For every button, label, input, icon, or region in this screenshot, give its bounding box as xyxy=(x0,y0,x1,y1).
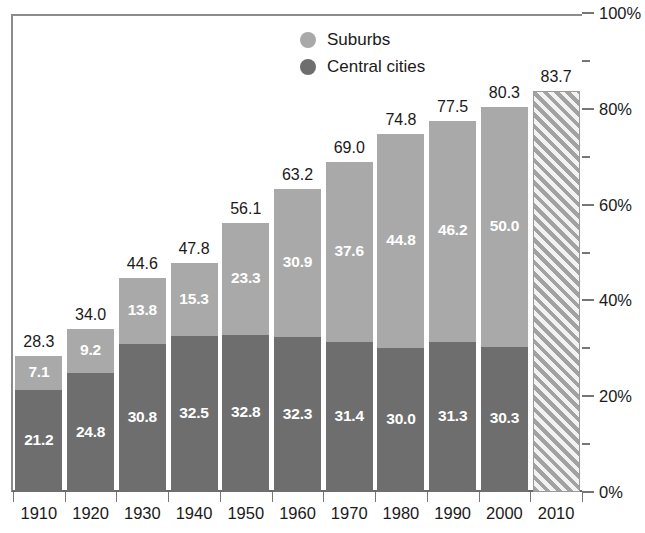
bar-segment-central-cities: 32.3 xyxy=(274,337,321,492)
x-axis-tick xyxy=(479,492,480,502)
bar-value-suburbs: 30.9 xyxy=(274,253,321,271)
bar-value-suburbs: 15.3 xyxy=(171,290,218,308)
bar-value-suburbs: 44.8 xyxy=(377,231,424,249)
bar-segment-suburbs: 37.6 xyxy=(326,162,373,342)
x-axis-label-1940: 1940 xyxy=(168,504,220,523)
x-axis-tick xyxy=(116,492,117,502)
x-axis-label-1970: 1970 xyxy=(323,504,375,523)
x-axis-tick xyxy=(582,492,583,502)
y-axis-tick-major xyxy=(582,395,594,397)
x-axis-label-1920: 1920 xyxy=(65,504,117,523)
bar-segment-central-cities: 30.3 xyxy=(481,347,528,492)
bar-total-label: 56.1 xyxy=(216,200,275,218)
bar-group: 44.830.074.8 xyxy=(377,134,424,492)
circle-icon xyxy=(300,32,316,48)
bar-segment-central-cities: 31.3 xyxy=(429,342,476,492)
y-axis-tick-minor xyxy=(582,443,590,445)
x-axis-tick xyxy=(530,492,531,502)
legend-label: Central cities xyxy=(327,57,425,77)
bar-group: 7.121.228.3 xyxy=(15,356,62,492)
bar-value-suburbs: 50.0 xyxy=(481,217,528,235)
x-axis-tick xyxy=(272,492,273,502)
chart-legend: SuburbsCentral cities xyxy=(300,26,425,80)
circle-icon xyxy=(300,59,316,75)
x-axis-label-1950: 1950 xyxy=(220,504,272,523)
bar-value-central-cities: 30.0 xyxy=(377,410,424,428)
x-axis-tick xyxy=(427,492,428,502)
bar-segment-central-cities: 21.2 xyxy=(15,390,62,492)
x-axis-tick xyxy=(220,492,221,502)
bar-segment-suburbs: 13.8 xyxy=(119,278,166,344)
bar-total-label: 28.3 xyxy=(9,333,68,351)
x-axis-label-1990: 1990 xyxy=(427,504,479,523)
bar-value-suburbs: 9.2 xyxy=(67,341,114,359)
bar-total-label: 83.7 xyxy=(527,68,586,86)
bar-segment-projected xyxy=(533,91,580,492)
bar-segment-suburbs: 46.2 xyxy=(429,121,476,342)
bar-value-suburbs: 7.1 xyxy=(15,364,62,382)
bar-group: 23.332.856.1 xyxy=(222,223,269,492)
y-axis-tick-major xyxy=(582,204,594,206)
bar-group: 13.830.844.6 xyxy=(119,278,166,492)
bar-group: 83.7 xyxy=(533,91,580,492)
bar-segment-central-cities: 30.8 xyxy=(119,344,166,492)
x-axis-tick xyxy=(168,492,169,502)
y-axis-label: 100% xyxy=(599,4,641,23)
bar-segment-central-cities: 30.0 xyxy=(377,348,424,492)
y-axis-label: 60% xyxy=(599,195,632,214)
bar-value-central-cities: 32.3 xyxy=(274,405,321,423)
x-axis-label-1980: 1980 xyxy=(375,504,427,523)
bar-segment-suburbs: 7.1 xyxy=(15,356,62,390)
legend-item: Suburbs xyxy=(300,26,425,53)
x-axis-label-1960: 1960 xyxy=(272,504,324,523)
y-axis-label: 0% xyxy=(599,483,623,502)
bar-total-label: 63.2 xyxy=(268,166,327,184)
x-axis-label-2010: 2010 xyxy=(530,504,582,523)
bar-total-label: 47.8 xyxy=(165,240,224,258)
y-axis-label: 40% xyxy=(599,291,632,310)
bar-segment-suburbs: 30.9 xyxy=(274,189,321,337)
bar-group: 46.231.377.5 xyxy=(429,121,476,492)
x-axis-tick xyxy=(375,492,376,502)
bar-value-central-cities: 32.5 xyxy=(171,404,218,422)
legend-label: Suburbs xyxy=(327,30,390,50)
x-axis-label-1930: 1930 xyxy=(116,504,168,523)
bar-segment-central-cities: 32.8 xyxy=(222,335,269,492)
bar-total-label: 69.0 xyxy=(320,139,379,157)
bar-segment-suburbs: 23.3 xyxy=(222,223,269,335)
bar-value-suburbs: 13.8 xyxy=(119,302,166,320)
bar-segment-central-cities: 24.8 xyxy=(67,373,114,492)
bar-segment-central-cities: 31.4 xyxy=(326,342,373,492)
bar-value-central-cities: 31.4 xyxy=(326,407,373,425)
y-axis-tick-minor xyxy=(582,252,590,254)
y-axis-tick-major xyxy=(582,12,594,14)
chart-root: 7.121.228.319109.224.834.0192013.830.844… xyxy=(0,0,645,533)
bar-segment-suburbs: 9.2 xyxy=(67,329,114,373)
bar-segment-suburbs: 50.0 xyxy=(481,107,528,347)
y-axis-label: 20% xyxy=(599,387,632,406)
bar-total-label: 74.8 xyxy=(371,111,430,129)
bar-group: 50.030.380.3 xyxy=(481,107,528,492)
x-axis-tick xyxy=(65,492,66,502)
bar-value-central-cities: 32.8 xyxy=(222,404,269,422)
y-axis-tick-minor xyxy=(582,60,590,62)
bar-total-label: 80.3 xyxy=(475,84,534,102)
bar-value-central-cities: 30.8 xyxy=(119,408,166,426)
x-axis-label-1910: 1910 xyxy=(13,504,65,523)
bar-total-label: 44.6 xyxy=(113,255,172,273)
bar-group: 9.224.834.0 xyxy=(67,329,114,492)
bar-value-central-cities: 30.3 xyxy=(481,410,528,428)
bar-group: 15.332.547.8 xyxy=(171,263,218,492)
y-axis-tick-minor xyxy=(582,156,590,158)
x-axis-tick xyxy=(323,492,324,502)
y-axis-tick-major xyxy=(582,299,594,301)
x-axis-tick xyxy=(13,492,14,502)
y-axis-tick-major xyxy=(582,491,594,493)
y-axis-label: 80% xyxy=(599,99,632,118)
bar-total-label: 77.5 xyxy=(423,98,482,116)
bar-segment-central-cities: 32.5 xyxy=(171,336,218,492)
bar-value-central-cities: 31.3 xyxy=(429,407,476,425)
y-axis-tick-minor xyxy=(582,347,590,349)
legend-item: Central cities xyxy=(300,53,425,80)
bar-segment-suburbs: 15.3 xyxy=(171,263,218,336)
